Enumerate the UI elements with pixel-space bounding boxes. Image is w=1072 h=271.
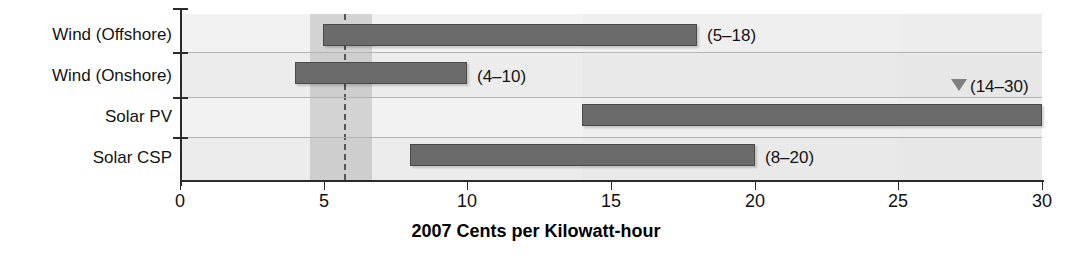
- category-label-text: Wind (Onshore): [52, 66, 172, 85]
- bar-solar-csp[interactable]: [410, 144, 755, 166]
- levelized-cost-range-chart: Wind (Offshore) Wind (Onshore) Solar PV …: [0, 0, 1072, 271]
- x-tick-label-10: 10: [457, 192, 477, 210]
- y-tick-wind-offshore: [173, 52, 188, 54]
- x-tick-label-25: 25: [888, 192, 908, 210]
- x-tick-label-15: 15: [601, 192, 621, 210]
- bar-wind-offshore[interactable]: [323, 24, 697, 46]
- bar-wind-onshore[interactable]: [295, 62, 467, 84]
- x-tick-0: [180, 182, 181, 190]
- range-label-wind-offshore: (5–18): [707, 27, 756, 44]
- category-label-text: Solar PV: [105, 107, 172, 126]
- range-label-solar-csp: (8–20): [765, 149, 814, 166]
- range-label-solar-pv: (14–30): [970, 78, 1029, 95]
- row-separator-2: [180, 97, 1042, 98]
- x-tick-5: [324, 182, 325, 190]
- category-label-solar-csp: Solar CSP: [0, 149, 172, 166]
- x-axis-title: 2007 Cents per Kilowatt-hour: [0, 222, 1072, 240]
- solar-pv-range-marker-icon: [951, 79, 967, 91]
- bar-solar-pv[interactable]: [582, 104, 1042, 126]
- range-label-wind-onshore: (4–10): [477, 68, 526, 85]
- y-tick-top: [173, 8, 188, 10]
- plot-area: [180, 14, 1042, 180]
- x-tick-label-30: 30: [1032, 192, 1052, 210]
- row-separator-3: [180, 137, 1042, 138]
- y-tick-solar-pv: [173, 137, 188, 139]
- x-tick-20: [755, 182, 756, 190]
- x-tick-15: [611, 182, 612, 190]
- y-tick-wind-onshore: [173, 97, 188, 99]
- category-label-text: Wind (Offshore): [52, 25, 172, 44]
- x-axis-line: [180, 180, 1044, 182]
- x-tick-label-5: 5: [319, 192, 329, 210]
- row-separator-1: [180, 52, 1042, 53]
- category-label-wind-onshore: Wind (Onshore): [0, 67, 172, 84]
- category-label-text: Solar CSP: [93, 148, 172, 167]
- x-tick-10: [467, 182, 468, 190]
- x-tick-label-20: 20: [745, 192, 765, 210]
- category-label-wind-offshore: Wind (Offshore): [0, 26, 172, 43]
- category-label-solar-pv: Solar PV: [0, 108, 172, 125]
- x-tick-25: [898, 182, 899, 190]
- x-tick-30: [1042, 182, 1043, 190]
- x-tick-label-0: 0: [175, 192, 185, 210]
